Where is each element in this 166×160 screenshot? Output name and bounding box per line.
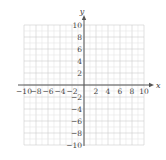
x-tick-label: 8	[130, 87, 135, 96]
y-tick-label: −10	[66, 141, 82, 150]
x-tick-label: −4	[54, 87, 65, 96]
y-tick-label: 2	[77, 69, 82, 78]
x-tick-label: −8	[30, 87, 41, 96]
x-tick-label: −6	[42, 87, 53, 96]
x-axis-arrow-icon	[149, 83, 154, 87]
x-tick-label: 4	[106, 87, 111, 96]
y-tick-label: −6	[71, 117, 82, 126]
y-tick-label: 10	[72, 21, 82, 30]
x-tick-label: 10	[139, 87, 149, 96]
x-axis-label: x	[156, 81, 161, 90]
coordinate-plane: −10−8−6−4−2246810−10−8−6−4−2246810 x y	[0, 0, 166, 160]
y-tick-label: −2	[71, 93, 82, 102]
y-tick-label: 4	[77, 57, 82, 66]
x-tick-label: 2	[94, 87, 99, 96]
y-tick-label: −4	[71, 105, 82, 114]
y-tick-label: −8	[71, 129, 82, 138]
y-tick-label: 6	[77, 45, 82, 54]
x-tick-label: 6	[118, 87, 123, 96]
axes	[18, 15, 154, 146]
y-axis-label: y	[79, 7, 85, 16]
y-tick-label: 8	[77, 33, 82, 42]
